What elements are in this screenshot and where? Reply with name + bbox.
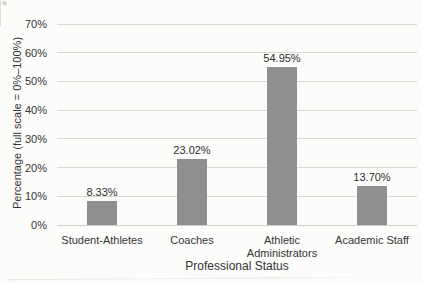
gridline-40% bbox=[57, 110, 417, 111]
gridline-60% bbox=[57, 52, 417, 53]
y-tick-label: 70% bbox=[15, 17, 47, 31]
bar bbox=[177, 159, 207, 225]
bar-chart: Percentage (full scale = 0%–100%) Profes… bbox=[0, 0, 423, 283]
x-axis-title: Professional Status bbox=[57, 259, 417, 273]
bar bbox=[267, 67, 297, 225]
x-category-label: Student-Athletes bbox=[53, 234, 151, 247]
gridline-30% bbox=[57, 138, 417, 139]
y-tick-label: 40% bbox=[15, 103, 47, 117]
gridline-50% bbox=[57, 81, 417, 82]
y-tick-label: 50% bbox=[15, 74, 47, 88]
x-category-label: Coaches bbox=[143, 234, 241, 247]
bar-value-label: 54.95% bbox=[250, 51, 314, 65]
y-tick-label: 0% bbox=[15, 218, 47, 232]
bar-value-label: 13.70% bbox=[340, 170, 404, 184]
gridline-20% bbox=[57, 167, 417, 168]
bar-value-label: 23.02% bbox=[160, 143, 224, 157]
x-category-label: Athletic Administrators bbox=[233, 234, 331, 260]
y-tick-label: 60% bbox=[15, 46, 47, 60]
y-tick-label: 10% bbox=[15, 189, 47, 203]
bar-value-label: 8.33% bbox=[70, 185, 134, 199]
scan-artifact-bottom-line bbox=[8, 277, 358, 280]
bar bbox=[87, 201, 117, 225]
bar bbox=[357, 186, 387, 225]
y-tick-label: 20% bbox=[15, 161, 47, 175]
scan-artifact-smudge bbox=[1, 0, 7, 6]
scan-artifact-left-edge bbox=[0, 0, 1, 26]
gridline-70% bbox=[57, 24, 417, 25]
x-category-label: Academic Staff bbox=[323, 234, 421, 247]
y-tick-label: 30% bbox=[15, 132, 47, 146]
